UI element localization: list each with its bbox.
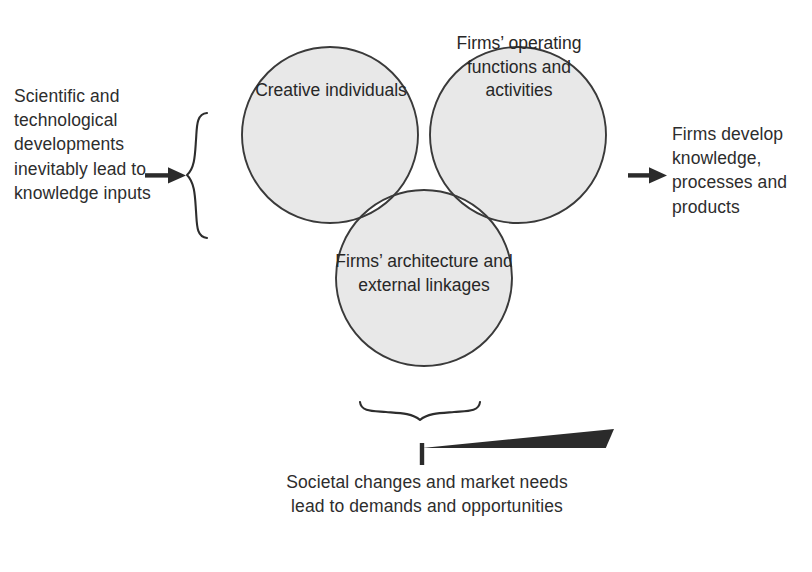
circle-label-firms-operating: Firms’ operating functions and activitie… bbox=[444, 32, 594, 103]
circle-label-firms-architecture: Firms’ architecture and external linkage… bbox=[316, 250, 532, 297]
bottom-input-caption: Societal changes and market needs lead t… bbox=[282, 470, 572, 518]
left-input-caption: Scientific and technological development… bbox=[14, 84, 164, 205]
right-output-caption: Firms develop knowledge, processes and p… bbox=[672, 122, 812, 219]
diagram-root: Scientific and technological development… bbox=[0, 0, 812, 572]
circle-label-creative-individuals: Creative individuals bbox=[246, 79, 416, 103]
